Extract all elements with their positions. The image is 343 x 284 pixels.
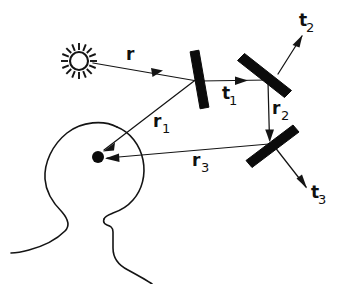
ray-diagram-figure: r r 1 r 2 r 3 t 1 t 2 t 3 xyxy=(0,0,343,284)
sun-ray xyxy=(83,44,86,51)
head-jaw-path xyxy=(104,127,144,219)
label-r2: r 2 xyxy=(272,98,289,123)
label-t3-sub: 3 xyxy=(318,192,326,207)
label-r2-sub: 2 xyxy=(281,108,289,123)
sun-ray xyxy=(72,71,75,78)
sun-ray xyxy=(62,65,69,68)
label-r1: r 1 xyxy=(153,111,170,136)
ray-t3 xyxy=(274,146,307,189)
sun-ray xyxy=(87,48,92,53)
observer-head-profile xyxy=(11,123,152,284)
sun-ray xyxy=(66,69,71,74)
mirror-1 xyxy=(190,50,209,109)
mirror-2-bar xyxy=(238,54,292,98)
ray-t2-arrowhead xyxy=(293,35,303,48)
label-r1-sub: 1 xyxy=(162,121,170,136)
head-outline-path xyxy=(11,123,117,253)
label-t3: t 3 xyxy=(311,182,326,207)
sun-ray xyxy=(89,65,96,68)
sun-ray xyxy=(72,44,75,51)
ray-diagram-canvas: r r 1 r 2 r 3 t 1 t 2 t 3 xyxy=(0,0,343,284)
mirror-2 xyxy=(238,54,292,98)
ray-r xyxy=(93,63,200,82)
observer-eye-dot xyxy=(92,151,104,163)
ray-t1-arrowhead xyxy=(235,77,248,86)
label-t2: t 2 xyxy=(299,10,314,35)
ray-r-line xyxy=(93,63,200,82)
ray-r3-line xyxy=(107,144,269,158)
label-t2-sub: 2 xyxy=(306,20,314,35)
label-r2-base: r xyxy=(272,98,281,118)
ray-r-arrowhead xyxy=(151,68,163,77)
ray-r1 xyxy=(103,78,198,152)
sun-disc xyxy=(70,52,88,70)
sun-ray xyxy=(87,69,92,74)
label-t1-sub: 1 xyxy=(229,93,237,108)
label-r3: r 3 xyxy=(192,150,209,175)
ray-r3-arrowhead xyxy=(105,154,120,163)
ray-t1-line xyxy=(200,80,268,81)
sun-ray xyxy=(62,54,69,57)
label-r1-base: r xyxy=(153,111,162,131)
label-t1: t 1 xyxy=(222,83,237,108)
sun-ray xyxy=(83,71,86,78)
label-r3-sub: 3 xyxy=(201,160,209,175)
ray-r1-line xyxy=(104,78,198,150)
label-r: r xyxy=(126,44,135,64)
mirror-1-bar xyxy=(190,50,209,109)
label-r3-base: r xyxy=(192,150,201,170)
head-chin-neck-path xyxy=(104,219,152,284)
sun-source xyxy=(61,43,97,79)
ray-t1 xyxy=(200,77,268,86)
label-r-base: r xyxy=(126,44,135,64)
sun-ray xyxy=(89,54,96,57)
sun-ray xyxy=(66,48,71,53)
ray-r3 xyxy=(105,144,269,162)
ray-t2 xyxy=(278,35,303,74)
